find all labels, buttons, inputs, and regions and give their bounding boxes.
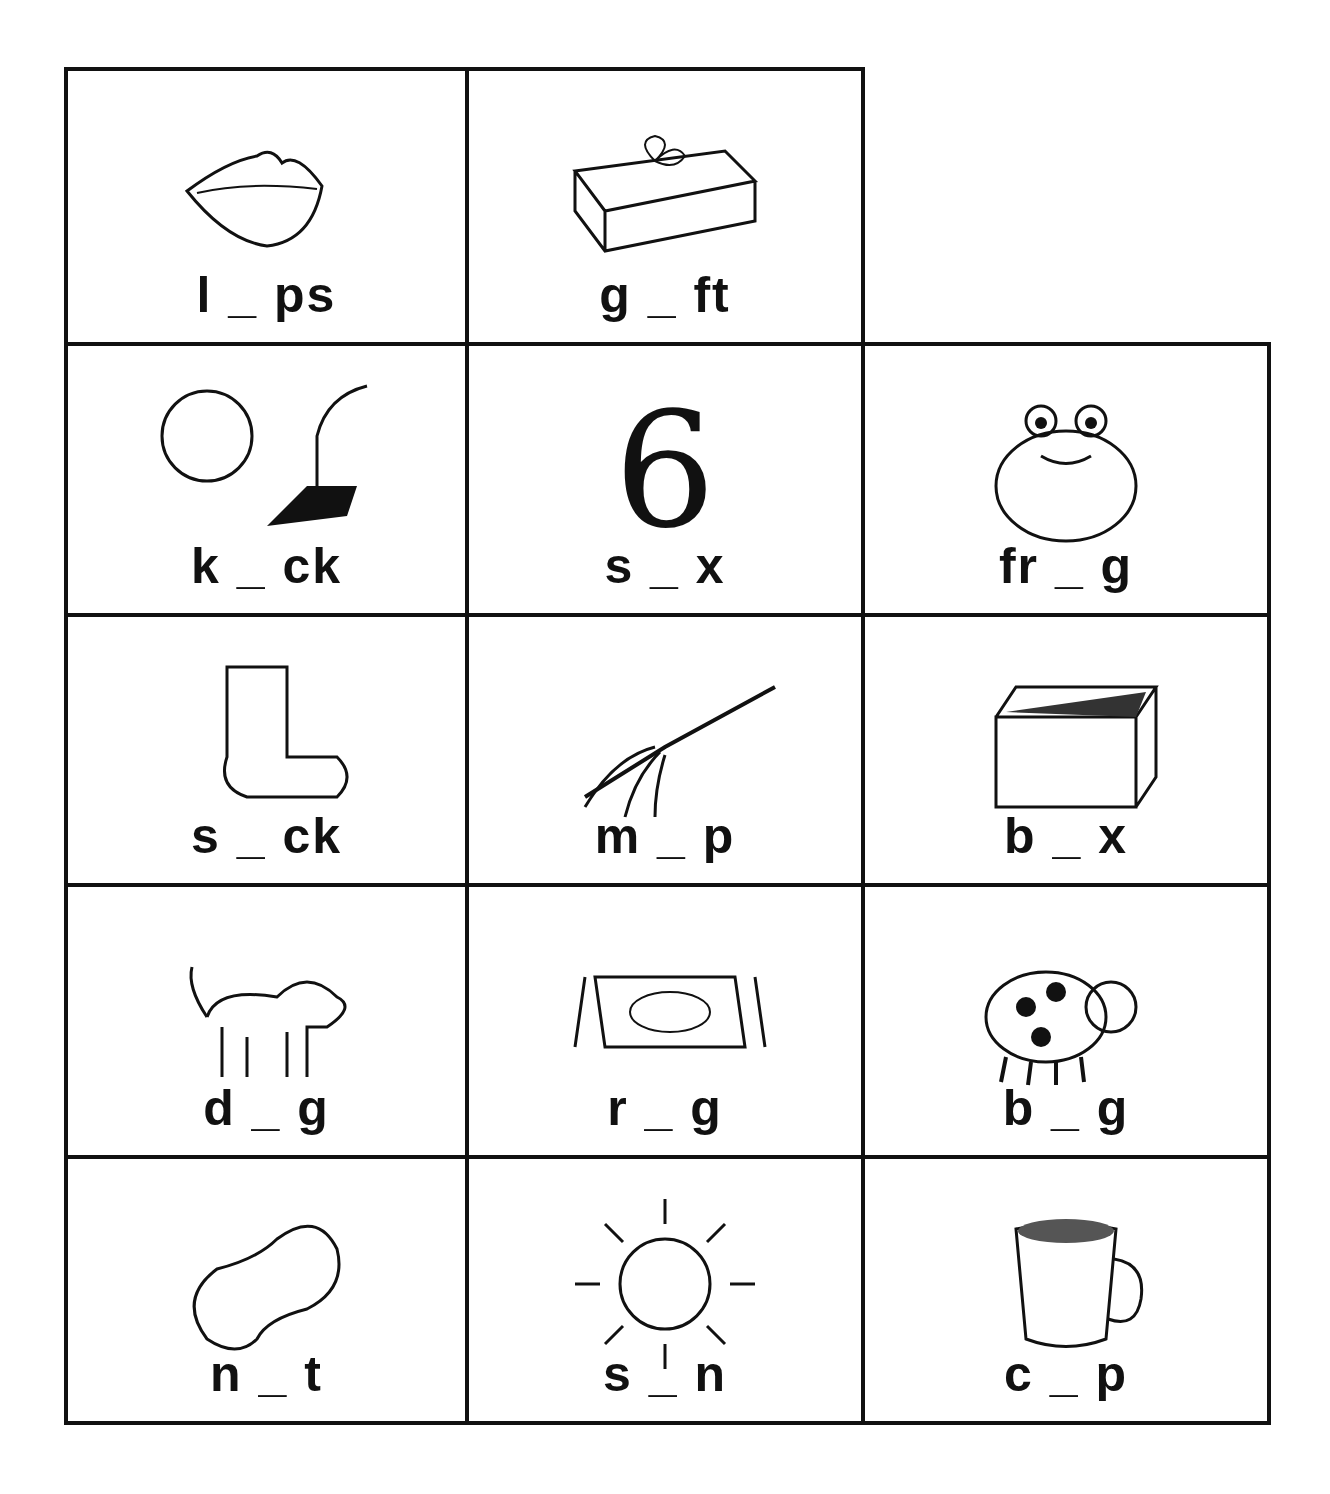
rug-icon bbox=[469, 907, 861, 1107]
word-label: b _ x bbox=[865, 807, 1267, 865]
worksheet-cell-mop: m _ p bbox=[465, 613, 865, 887]
worksheet-cell-sock: s _ ck bbox=[64, 613, 469, 887]
worksheet-cell-frog: fr _ g bbox=[861, 342, 1271, 617]
svg-text:6: 6 bbox=[614, 377, 716, 556]
worksheet-cell-rug: r _ g bbox=[465, 883, 865, 1159]
word-label: s _ n bbox=[469, 1345, 861, 1403]
gift-icon bbox=[469, 91, 861, 291]
word-label: n _ t bbox=[68, 1345, 465, 1403]
worksheet-cell-lips: l _ ps bbox=[64, 67, 469, 346]
bug-icon bbox=[865, 907, 1267, 1107]
word-label: r _ g bbox=[469, 1079, 861, 1137]
word-label: fr _ g bbox=[865, 537, 1267, 595]
worksheet-cell-bug: b _ g bbox=[861, 883, 1271, 1159]
frog-icon bbox=[865, 366, 1267, 566]
word-label: b _ g bbox=[865, 1079, 1267, 1137]
word-label: s _ ck bbox=[68, 807, 465, 865]
worksheet-cell-cup: c _ p bbox=[861, 1155, 1271, 1425]
word-label: s _ x bbox=[469, 537, 861, 595]
six-icon: 6 bbox=[469, 366, 861, 566]
worksheet-cell-kick: k _ ck bbox=[64, 342, 469, 617]
lips-icon bbox=[68, 91, 465, 291]
worksheet-cell-nut: n _ t bbox=[64, 1155, 469, 1425]
worksheet-cell-gift: g _ ft bbox=[465, 67, 865, 346]
worksheet-cell-six: 6s _ x bbox=[465, 342, 865, 617]
word-label: k _ ck bbox=[68, 537, 465, 595]
worksheet-cell-sun: s _ n bbox=[465, 1155, 865, 1425]
kick-icon bbox=[68, 366, 465, 566]
word-label: m _ p bbox=[469, 807, 861, 865]
word-label: d _ g bbox=[68, 1079, 465, 1137]
worksheet-cell-box: b _ x bbox=[861, 613, 1271, 887]
dog-icon bbox=[68, 907, 465, 1107]
word-label: c _ p bbox=[865, 1345, 1267, 1403]
worksheet-cell-dog: d _ g bbox=[64, 883, 469, 1159]
word-label: g _ ft bbox=[469, 266, 861, 324]
word-label: l _ ps bbox=[68, 266, 465, 324]
